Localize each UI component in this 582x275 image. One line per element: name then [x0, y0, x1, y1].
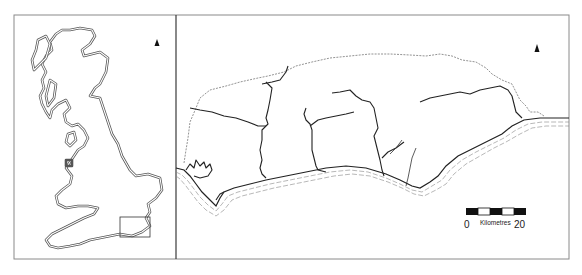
- scale-bar: 0 Kilometres 20: [464, 208, 526, 230]
- overview-panel: [32, 28, 162, 248]
- river-adur: [332, 90, 404, 176]
- north-arrow-icon: [155, 39, 160, 46]
- river-arun: [260, 66, 288, 178]
- river-tributary: [406, 148, 416, 186]
- river-ouse: [420, 86, 522, 118]
- scale-end-label: 20: [514, 219, 526, 230]
- rivers: [190, 66, 522, 186]
- scale-unit-label: Kilometres: [480, 219, 511, 226]
- map-figure: 0 Kilometres 20: [0, 0, 582, 275]
- county-boundary: [184, 54, 544, 163]
- river-tributary-2: [390, 140, 402, 154]
- scale-start-label: 0: [464, 219, 470, 230]
- north-arrow-icon: [535, 44, 540, 52]
- great-britain-outline: [32, 28, 162, 248]
- detail-panel: 0 Kilometres 20: [176, 44, 569, 230]
- river-west: [190, 108, 266, 126]
- river-central: [304, 108, 354, 172]
- coastline: [176, 118, 569, 216]
